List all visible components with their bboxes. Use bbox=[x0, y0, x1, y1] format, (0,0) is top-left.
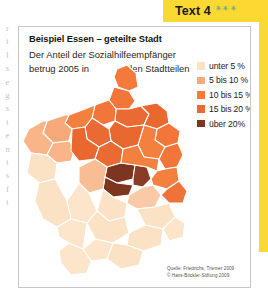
bleed-char: n bbox=[0, 143, 15, 156]
legend-swatch-icon bbox=[197, 62, 205, 70]
map-legend: unter 5 % 5 bis 10 % 10 bis 15 % 15 bis … bbox=[197, 59, 251, 131]
legend-swatch-icon bbox=[197, 120, 205, 128]
legend-label: 5 bis 10 % bbox=[209, 75, 248, 85]
text-section-header: Text 4 ✳✳✳ bbox=[163, 0, 259, 22]
page-bleed-text: rtlsegstentsft bbox=[0, 22, 15, 284]
essen-choropleth-map bbox=[18, 43, 195, 281]
bleed-char: e bbox=[0, 129, 15, 142]
bleed-char: t bbox=[0, 35, 15, 48]
bleed-char: f bbox=[0, 183, 15, 196]
district-haarzopf bbox=[35, 179, 71, 227]
legend-label: 10 bis 15 % bbox=[209, 90, 251, 100]
page-title: Text 4 bbox=[175, 4, 211, 18]
district-shapes bbox=[23, 65, 187, 275]
bleed-char: s bbox=[0, 62, 15, 75]
bleed-char: e bbox=[0, 76, 15, 89]
bleed-char: s bbox=[0, 102, 15, 115]
legend-label: 15 bis 20 % bbox=[209, 104, 251, 114]
legend-swatch-icon bbox=[197, 91, 205, 99]
figure-container: Beispiel Essen – geteilte Stadt Der Ante… bbox=[18, 26, 251, 288]
bleed-char: l bbox=[0, 49, 15, 62]
district-ostviertel bbox=[133, 165, 151, 187]
district-karnap-north-tip bbox=[114, 65, 138, 91]
source-attribution: Quelle: Friedrichs, Triemer 2009 © Hans-… bbox=[167, 265, 234, 280]
source-line-1: Quelle: Friedrichs, Triemer 2009 bbox=[167, 265, 234, 272]
legend-item: unter 5 % bbox=[197, 59, 251, 73]
bleed-char: r bbox=[0, 22, 15, 35]
difficulty-stars: ✳✳✳ bbox=[215, 4, 238, 13]
legend-label: über 20% bbox=[209, 119, 245, 129]
legend-item: 10 bis 15 % bbox=[197, 88, 251, 102]
bleed-char: g bbox=[0, 89, 15, 102]
source-line-2: © Hans-Böckler-Stiftung 2009 bbox=[167, 272, 234, 279]
legend-item: 5 bis 10 % bbox=[197, 73, 251, 87]
bleed-char: s bbox=[0, 169, 15, 182]
legend-item: 15 bis 20 % bbox=[197, 102, 251, 116]
bleed-char: t bbox=[0, 156, 15, 169]
bleed-char: t bbox=[0, 196, 15, 209]
right-edge-strip-mask bbox=[259, 252, 268, 300]
legend-swatch-icon bbox=[197, 77, 205, 85]
legend-swatch-icon bbox=[197, 105, 205, 113]
legend-label: unter 5 % bbox=[209, 61, 245, 71]
legend-item: über 20% bbox=[197, 117, 251, 131]
bleed-char: t bbox=[0, 116, 15, 129]
